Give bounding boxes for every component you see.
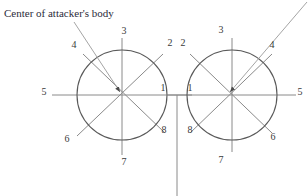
left-direction-label-5: 5 [42,87,47,97]
right-direction-label-7: 7 [219,155,224,165]
right-direction-label-4: 4 [270,40,275,50]
left-direction-label-3: 3 [122,26,127,36]
right-direction-label-3: 3 [219,25,224,35]
left-direction-label-1: 1 [161,83,166,93]
right-direction-label-1: 1 [188,83,193,93]
right-direction-label-2: 2 [181,38,186,48]
octagon-footwork-diagram [0,0,308,196]
left-direction-label-2: 2 [168,38,173,48]
right-circle-group [166,38,296,152]
right-direction-label-6: 6 [271,132,276,142]
left-direction-label-4: 4 [72,40,77,50]
caption-attacker-center: Center of attacker's body [4,8,114,19]
left-direction-label-7: 7 [122,157,127,167]
right-direction-label-5: 5 [298,87,303,97]
left-axis-diagonal-4-8 [83,54,165,133]
diagram-canvas: Center of attacker's body 12345678123456… [0,0,308,196]
attacker-direction-line [230,2,307,92]
left-circle-group [52,38,192,155]
left-direction-label-8: 8 [162,125,167,135]
caption-leader-line [74,22,120,92]
left-direction-label-6: 6 [65,134,70,144]
right-direction-label-8: 8 [188,125,193,135]
